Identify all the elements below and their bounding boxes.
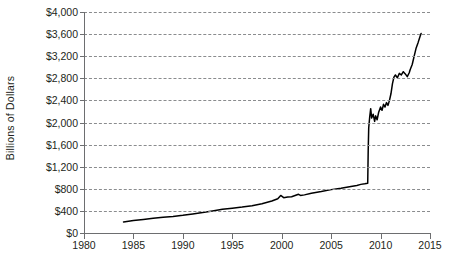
y-axis-title-text: Billions of Dollars [4, 76, 16, 160]
y-tick-mark [80, 189, 85, 190]
x-tick-mark [381, 234, 382, 239]
gridline [84, 34, 430, 35]
y-tick-mark [80, 145, 85, 146]
gridline [84, 12, 430, 13]
gridline [84, 145, 430, 146]
x-tick-mark [133, 234, 134, 239]
gridline [84, 123, 430, 124]
y-tick-label: $3,600 [20, 29, 78, 40]
x-tick-label: 2000 [260, 240, 304, 251]
y-tick-mark [80, 123, 85, 124]
gridline [84, 56, 430, 57]
x-tick-label: 2015 [408, 240, 452, 251]
chart-figure: Billions of Dollars $4,000$3,600$3,200$2… [0, 0, 457, 272]
y-tick-label: $2,000 [20, 118, 78, 129]
x-tick-label: 1995 [210, 240, 254, 251]
y-tick-mark [80, 100, 85, 101]
y-tick-label: $4,000 [20, 7, 78, 18]
y-tick-label: $1,200 [20, 162, 78, 173]
y-axis-title: Billions of Dollars [0, 0, 20, 236]
x-tick-mark [232, 234, 233, 239]
gridline [84, 78, 430, 79]
y-tick-mark [80, 211, 85, 212]
y-tick-label: $2,400 [20, 95, 78, 106]
y-tick-mark [80, 12, 85, 13]
x-tick-mark [282, 234, 283, 239]
x-tick-label: 1985 [111, 240, 155, 251]
y-tick-label: $3,200 [20, 51, 78, 62]
y-tick-label: $0 [20, 228, 78, 239]
y-tick-mark [80, 167, 85, 168]
x-tick-label: 2010 [359, 240, 403, 251]
x-axis-line [84, 233, 431, 234]
series-line-total-assets [124, 34, 422, 222]
plot-area [84, 12, 430, 233]
x-tick-label: 1990 [161, 240, 205, 251]
y-tick-label: $800 [20, 184, 78, 195]
y-tick-label: $2,800 [20, 73, 78, 84]
x-tick-label: 2005 [309, 240, 353, 251]
y-tick-label: $1,600 [20, 140, 78, 151]
x-tick-mark [430, 234, 431, 239]
gridline [84, 189, 430, 190]
gridline [84, 100, 430, 101]
gridline [84, 167, 430, 168]
x-tick-mark [183, 234, 184, 239]
y-tick-label: $400 [20, 206, 78, 217]
y-tick-mark [80, 78, 85, 79]
x-tick-mark [331, 234, 332, 239]
y-tick-mark [80, 34, 85, 35]
x-tick-label: 1980 [62, 240, 106, 251]
y-tick-mark [80, 56, 85, 57]
x-tick-mark [84, 234, 85, 239]
gridline [84, 211, 430, 212]
